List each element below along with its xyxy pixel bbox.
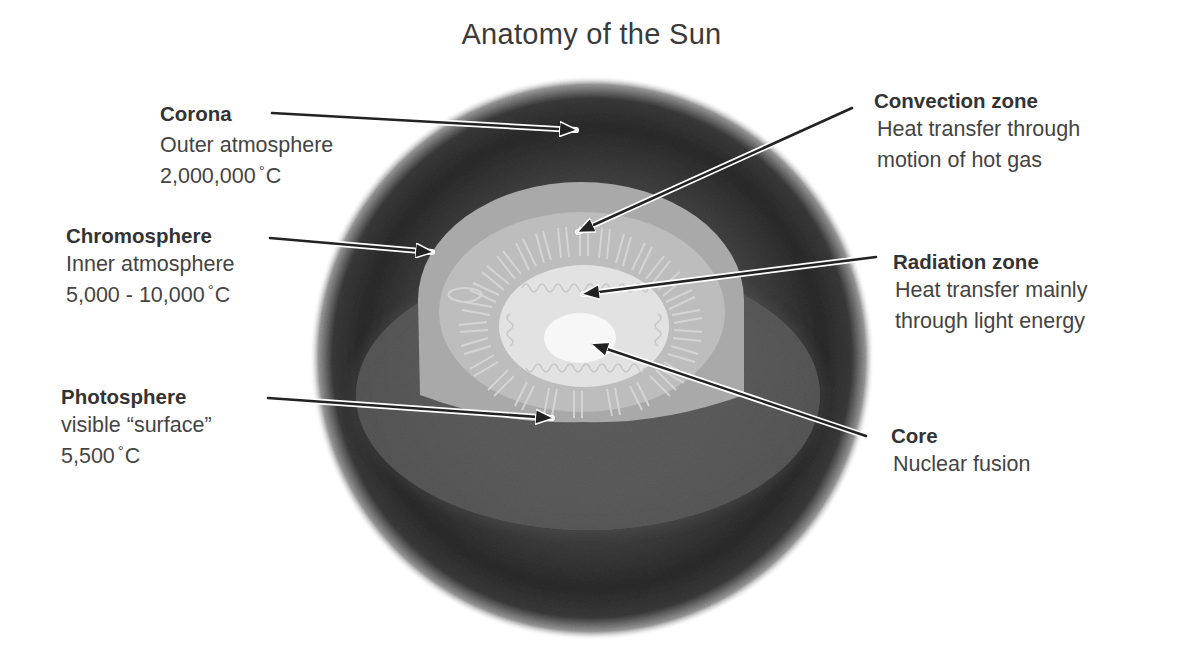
photosphere-description: visible “surface” (61, 410, 212, 441)
sun-anatomy-diagram: Anatomy of the Sun Corona Outer atmosphe… (0, 0, 1183, 662)
chromosphere-name: Chromosphere (66, 223, 235, 249)
corona-temp-unit: C (266, 164, 282, 188)
radiation-zone-name: Radiation zone (893, 249, 1087, 275)
degree-symbol: ° (259, 162, 265, 179)
diagram-title: Anatomy of the Sun (0, 18, 1183, 51)
chromosphere-temp-unit: C (215, 283, 231, 307)
photosphere-temperature: 5,500°C (61, 441, 212, 473)
chromosphere-description: Inner atmosphere (66, 249, 235, 280)
corona-temp-value: 2,000,000 (160, 164, 256, 188)
convection-zone-description-line2: motion of hot gas (877, 145, 1080, 176)
chromosphere-temperature: 5,000 - 10,000°C (66, 280, 235, 312)
convection-zone-description-line1: Heat transfer through (877, 114, 1080, 145)
degree-symbol: ° (208, 281, 214, 298)
photosphere-name: Photosphere (61, 384, 212, 410)
photosphere-temp-value: 5,500 (61, 444, 115, 468)
label-chromosphere: Chromosphere Inner atmosphere 5,000 - 10… (66, 223, 235, 312)
label-core: Core Nuclear fusion (891, 423, 1030, 480)
degree-symbol: ° (118, 442, 124, 459)
corona-temperature: 2,000,000°C (160, 161, 333, 193)
core-description: Nuclear fusion (893, 449, 1030, 480)
label-radiation-zone: Radiation zone Heat transfer mainly thro… (893, 249, 1087, 337)
photosphere-temp-unit: C (125, 444, 141, 468)
corona-name: Corona (160, 101, 333, 127)
core-layer (544, 313, 616, 363)
label-corona: Corona Outer atmosphere 2,000,000°C (160, 101, 333, 193)
corona-description: Outer atmosphere (160, 130, 333, 161)
convection-zone-name: Convection zone (874, 88, 1080, 114)
core-name: Core (891, 423, 1030, 449)
chromosphere-temp-value: 5,000 - 10,000 (66, 283, 205, 307)
label-convection-zone: Convection zone Heat transfer through mo… (874, 88, 1080, 176)
radiation-zone-description-line1: Heat transfer mainly (895, 275, 1087, 306)
label-photosphere: Photosphere visible “surface” 5,500°C (61, 384, 212, 473)
radiation-zone-description-line2: through light energy (895, 306, 1087, 337)
